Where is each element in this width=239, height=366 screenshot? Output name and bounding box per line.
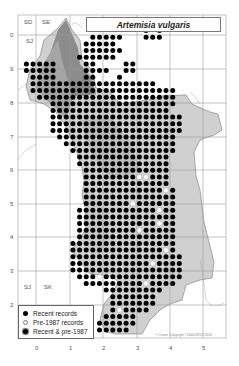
recent-dot-icon — [23, 311, 28, 316]
y-axis-label: 9 — [10, 66, 13, 72]
region-label: SJ — [24, 284, 31, 290]
region-label: SJ — [26, 38, 33, 44]
y-axis-label: 2 — [10, 302, 13, 308]
region-label: SD — [24, 19, 32, 25]
map-legend: Recent records Pre-1987 records Recent &… — [18, 305, 94, 339]
y-axis-label: 6 — [10, 167, 13, 173]
x-axis-label: 3 — [136, 345, 139, 351]
both-dot-icon — [23, 329, 28, 334]
region-label: SK — [44, 284, 52, 290]
map-title: Artemisia vulgaris — [117, 20, 191, 30]
legend-item-pre-1987: Pre-1987 records — [23, 318, 93, 327]
x-axis-label: 0 — [35, 345, 38, 351]
y-axis-label: 8 — [10, 100, 13, 106]
y-axis-label: 3 — [10, 268, 13, 274]
y-axis-label: 5 — [10, 201, 13, 207]
x-axis-label: 2 — [102, 345, 105, 351]
y-axis-label: 0 — [10, 32, 13, 38]
region-label: SE — [42, 19, 50, 25]
y-axis-label: 4 — [10, 234, 13, 240]
x-axis-label: 1 — [69, 345, 72, 351]
copyright-notice: © Crown Copyright / 100024915 2014 — [155, 333, 212, 337]
legend-item-recent: Recent records — [23, 309, 93, 318]
x-axis-label: 4 — [169, 345, 172, 351]
legend-item-both: Recent & pre-1987 — [23, 327, 93, 336]
x-axis-label: 5 — [202, 345, 205, 351]
y-axis-label: 7 — [10, 134, 13, 140]
map-title-box: Artemisia vulgaris — [86, 17, 221, 32]
pre-1987-dot-icon — [23, 320, 28, 325]
